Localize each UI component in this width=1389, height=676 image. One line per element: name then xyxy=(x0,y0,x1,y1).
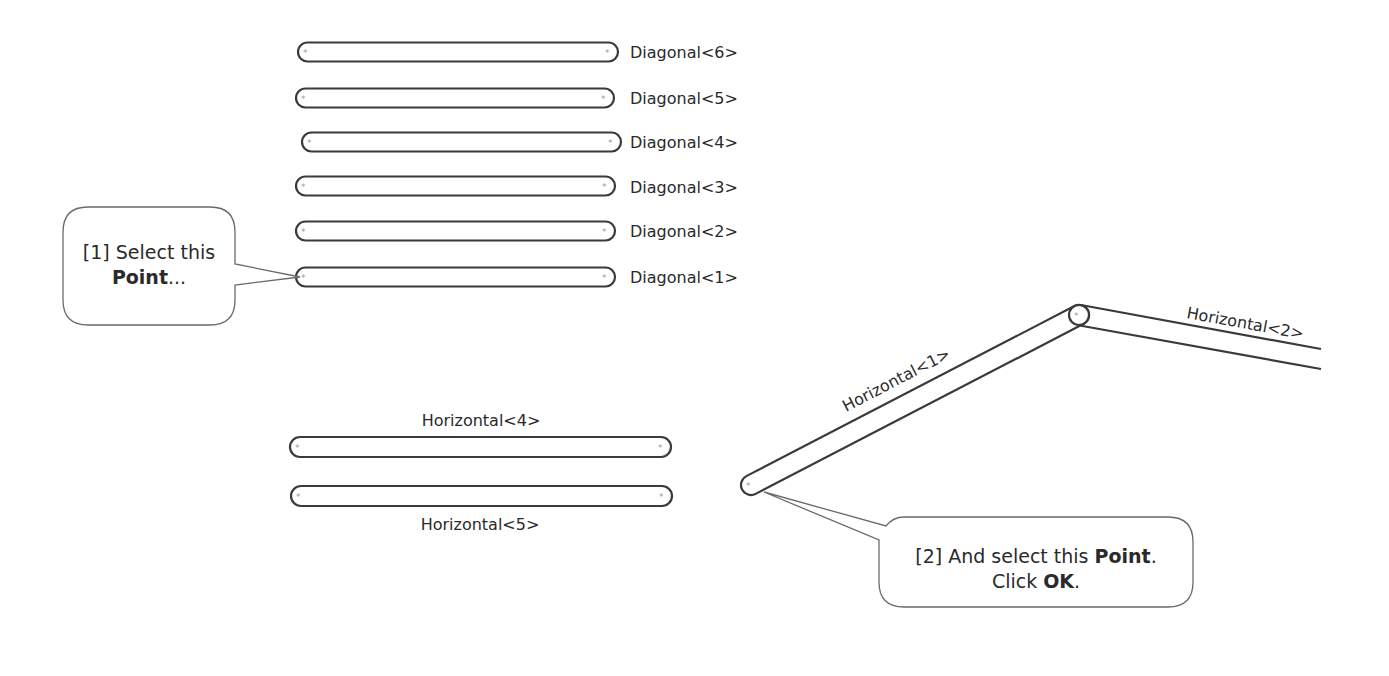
member-label: Horizontal<5> xyxy=(421,515,540,534)
diagonal-member-1[interactable]: * * Diagonal<1> xyxy=(296,268,738,288)
horizontal-member-1[interactable]: * Horizontal<1> xyxy=(738,301,1093,498)
joint-point-icon[interactable]: * xyxy=(602,182,607,192)
horizontal-member-2[interactable]: Horizontal<2> xyxy=(1077,303,1321,369)
joint-point-icon[interactable]: * xyxy=(295,443,300,453)
horizontal-member-5[interactable]: * * Horizontal<5> xyxy=(291,486,672,534)
frame-joint[interactable]: * xyxy=(1069,305,1089,325)
diagonal-member-3[interactable]: * * Diagonal<3> xyxy=(296,177,738,198)
point-keyword: Point xyxy=(1095,545,1151,567)
member-label: Diagonal<2> xyxy=(630,222,738,241)
member-label: Diagonal<5> xyxy=(630,89,738,108)
joint-point-icon[interactable]: * xyxy=(296,492,301,502)
joint-point-icon[interactable]: * xyxy=(301,182,306,192)
joint-point-icon[interactable]: * xyxy=(605,48,610,58)
joint-point-icon[interactable]: * xyxy=(301,227,306,237)
callout-1-line-1: [1] Select this xyxy=(83,241,215,263)
callout-2-line-1: [2] And select this Point. xyxy=(915,545,1156,567)
joint-point-icon-selected-1[interactable]: * xyxy=(301,273,306,283)
member-label: Diagonal<6> xyxy=(630,43,738,62)
ok-keyword: OK xyxy=(1043,570,1075,592)
joint-point-icon[interactable]: * xyxy=(608,138,613,148)
member-label: Diagonal<4> xyxy=(630,133,738,152)
joint-point-icon[interactable]: * xyxy=(1074,311,1079,321)
truss-diagram-canvas: * * Diagonal<6> * * Diagonal<5> * * Diag… xyxy=(0,0,1389,676)
joint-point-icon[interactable]: * xyxy=(307,138,312,148)
joint-point-icon-selected-2[interactable]: * xyxy=(746,481,751,491)
diagonal-member-6[interactable]: * * Diagonal<6> xyxy=(298,43,738,63)
point-keyword: Point xyxy=(112,266,168,288)
member-label: Horizontal<2> xyxy=(1185,303,1305,343)
joint-point-icon[interactable]: * xyxy=(659,492,664,502)
joint-point-icon[interactable]: * xyxy=(602,273,607,283)
joint-point-icon[interactable]: * xyxy=(303,48,308,58)
joint-point-icon[interactable]: * xyxy=(301,94,306,104)
callout-step-1: [1] Select this Point... xyxy=(63,207,300,325)
diagonal-member-4[interactable]: * * Diagonal<4> xyxy=(302,133,738,153)
diagonal-member-2[interactable]: * * Diagonal<2> xyxy=(296,222,738,242)
horizontal-member-4[interactable]: Horizontal<4> * * xyxy=(290,411,671,457)
joint-point-icon[interactable]: * xyxy=(602,227,607,237)
callout-1-line-2: Point... xyxy=(112,266,186,288)
callout-2-line-2: Click OK. xyxy=(992,570,1080,592)
diagonal-member-5[interactable]: * * Diagonal<5> xyxy=(296,89,738,109)
member-label: Diagonal<1> xyxy=(630,268,738,287)
callout-step-2: [2] And select this Point. Click OK. xyxy=(764,492,1193,607)
member-label: Diagonal<3> xyxy=(630,178,738,197)
member-label: Horizontal<4> xyxy=(422,411,541,430)
joint-point-icon[interactable]: * xyxy=(658,443,663,453)
joint-point-icon[interactable]: * xyxy=(601,94,606,104)
